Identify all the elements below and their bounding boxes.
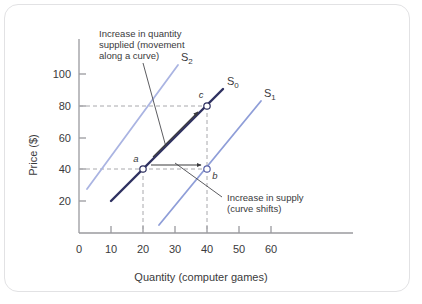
x-axis-title: Quantity (computer games) [134,271,267,283]
x-tick-label-20: 20 [137,243,149,255]
annotation-movement-leader [143,63,166,147]
supply-curve-chart: 100 80 60 40 20 0 10 20 30 40 50 60 Pric… [5,5,411,293]
y-axis-ticks: 100 80 60 40 20 [53,68,86,207]
curve-label-s0: S0 [227,75,239,90]
curve-labels: S2 S0 S1 [181,51,276,102]
annotation-movement-text: Increase in quantity supplied (movement … [99,28,187,61]
x-tick-label-40: 40 [201,243,213,255]
y-tick-label-60: 60 [59,132,71,144]
point-a-marker [140,166,146,172]
point-c-marker [204,103,210,109]
annotation-supply-text: Increase in supply (curve shifts) [227,192,306,214]
y-axis-title: Price ($) [27,134,39,176]
figure-card: 100 80 60 40 20 0 10 20 30 40 50 60 Pric… [4,4,410,292]
point-c-label: c [199,89,204,100]
point-b-marker [204,166,210,172]
point-a-label: a [133,153,138,164]
point-b-label: b [212,170,217,181]
annotation-movement-arrow [153,112,198,157]
x-tick-label-50: 50 [233,243,245,255]
y-tick-label-80: 80 [59,100,71,112]
x-tick-label-60: 60 [265,243,277,255]
annotation-movement-along-curve: Increase in quantity supplied (movement … [99,28,198,157]
curve-label-s1: S1 [264,87,276,102]
curve-s2 [87,65,178,189]
x-tick-label-10: 10 [105,243,117,255]
x-tick-label-30: 30 [169,243,181,255]
x-tick-label-0: 0 [76,243,82,255]
y-tick-label-40: 40 [59,163,71,175]
y-tick-label-20: 20 [59,195,71,207]
y-tick-label-100: 100 [53,68,71,80]
curve-label-s2: S2 [181,51,193,66]
x-axis-ticks: 0 10 20 30 40 50 60 [76,226,277,255]
chart-axes [79,39,353,233]
